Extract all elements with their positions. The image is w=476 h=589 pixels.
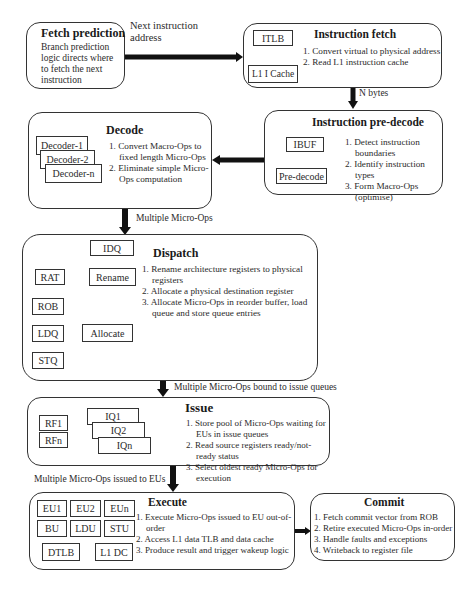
block-rob: ROB [32, 298, 64, 315]
stage-title: Dispatch [153, 246, 198, 261]
block-bu: BU [37, 520, 67, 537]
stage-title: Execute [148, 496, 187, 508]
stage-steps: 1. Store pool of Micro-Ops waiting for E… [186, 418, 331, 484]
stage-steps: 1. Convert Macro-Ops to fixed length Mic… [109, 141, 212, 185]
arrow-execute-to-commit [295, 527, 311, 535]
arrow-decode-to-dispatch [119, 209, 131, 235]
stage-issue: Issue 1. Store pool of Micro-Ops waiting… [27, 397, 330, 466]
stage-steps: 1. Rename architecture registers to phys… [142, 264, 317, 319]
stage-title: Issue [185, 400, 213, 416]
edge-label-multiple-micro-ops: Multiple Micro-Ops [136, 213, 213, 223]
block-itlb: ITLB [253, 30, 293, 46]
stage-title: Instruction fetch [314, 28, 396, 40]
stage-fetch-prediction: Fetch prediction Branch prediction logic… [26, 22, 125, 89]
block-dtlb: DTLB [42, 543, 80, 561]
stage-commit: Commit 1. Fetch commit vector from ROB 2… [310, 493, 455, 561]
stage-steps: 1. Execute Micro-Ops issued to EU out-of… [136, 512, 296, 556]
block-predecode: Pre-decode [276, 168, 327, 184]
block-ibuf: IBUF [286, 137, 324, 152]
edge-label-bound-to-issue-queues: Multiple Micro-Ops bound to issue queues [174, 382, 337, 392]
block-decoder-n: Decoder-n [45, 164, 102, 183]
block-rf1: RF1 [39, 415, 68, 431]
block-rename: Rename [89, 268, 136, 286]
stage-dispatch: Dispatch 1. Rename architecture register… [22, 234, 318, 381]
block-eu2: EU2 [70, 500, 101, 517]
arrow-fetch-to-ifetch [125, 52, 243, 62]
block-ldq: LDQ [32, 325, 64, 342]
edge-label-n-bytes: N bytes [359, 88, 388, 98]
stage-title: Decode [106, 123, 143, 138]
stage-steps: 1. Detect instruction boundaries 2. Iden… [345, 137, 443, 203]
stage-steps: 1. Fetch commit vector from ROB 2. Retir… [314, 512, 456, 556]
block-l1-i-cache: L1 I Cache [248, 65, 298, 83]
arrow-issue-to-execute [167, 466, 179, 492]
block-idq: IDQ [90, 240, 134, 256]
arrow-predecode-to-decode [212, 155, 264, 165]
block-rat: RAT [35, 269, 65, 285]
block-ldu: LDU [70, 520, 101, 537]
block-rfn: RFn [39, 432, 68, 448]
stage-title: Fetch prediction [41, 26, 125, 41]
block-l1-dc: L1 DC [95, 543, 133, 561]
block-eu1: EU1 [37, 500, 67, 517]
edge-label-issued-to-eus: Multiple Micro-Ops issued to EUs [34, 474, 165, 484]
edge-label-next-instruction: Next instruction address [130, 20, 198, 44]
stage-description: Branch prediction logic directs where to… [41, 42, 119, 86]
stage-title: Commit [364, 496, 404, 508]
block-allocate: Allocate [82, 324, 133, 342]
block-stu: STU [104, 520, 135, 537]
block-stq: STQ [32, 352, 64, 369]
block-eun: EUn [104, 500, 135, 517]
block-iqn: IQn [98, 437, 151, 454]
arrow-dispatch-to-issue [157, 380, 169, 397]
stage-steps: 1. Convert virtual to physical address 2… [303, 46, 443, 68]
stage-title: Instruction pre-decode [312, 116, 424, 128]
arrow-ifetch-to-predecode [348, 88, 358, 109]
